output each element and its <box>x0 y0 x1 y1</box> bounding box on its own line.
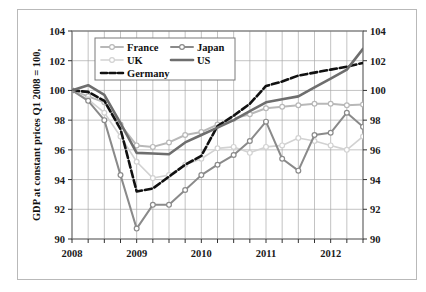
y-tick-label-right: 98 <box>370 115 381 126</box>
series-marker-uk <box>344 147 349 152</box>
y-tick-label-left: 100 <box>49 85 65 96</box>
series-marker-uk <box>150 176 155 181</box>
legend-marker-japan <box>180 45 185 50</box>
series-marker-france <box>150 144 155 149</box>
y-tick-label-right: 96 <box>370 145 381 156</box>
x-tick-label: 2009 <box>126 248 147 259</box>
legend-label-us[interactable]: US <box>197 55 211 66</box>
y-tick-label-left: 102 <box>49 56 65 67</box>
series-marker-uk <box>328 143 333 148</box>
series-marker-uk <box>102 110 107 115</box>
x-tick-label: 2012 <box>320 248 341 259</box>
series-marker-france <box>361 102 366 107</box>
series-marker-uk <box>247 150 252 155</box>
x-tick-label: 2010 <box>191 248 212 259</box>
y-tick-label-left: 98 <box>55 115 66 126</box>
y-tick-label-right: 90 <box>370 234 381 245</box>
series-marker-japan <box>183 188 188 193</box>
series-marker-france <box>312 101 317 106</box>
series-marker-uk <box>134 159 139 164</box>
series-marker-france <box>183 133 188 138</box>
series-marker-uk <box>361 134 366 139</box>
series-marker-france <box>344 103 349 108</box>
series-marker-japan <box>247 139 252 144</box>
series-marker-japan <box>280 156 285 161</box>
legend-label-germany[interactable]: Germany <box>127 68 170 79</box>
y-tick-label-left: 90 <box>55 234 66 245</box>
series-marker-uk <box>231 144 236 149</box>
series-marker-uk <box>280 143 285 148</box>
legend-label-france[interactable]: France <box>127 42 159 53</box>
series-marker-uk <box>215 146 220 151</box>
y-tick-label-right: 104 <box>370 26 387 37</box>
y-tick-label-right: 100 <box>370 85 386 96</box>
x-axis: 20082009201020112012 <box>62 239 364 259</box>
series-marker-japan <box>344 110 349 115</box>
x-tick-label: 2011 <box>256 248 276 259</box>
series-marker-uk <box>264 144 269 149</box>
y-tick-label-right: 92 <box>370 204 381 215</box>
gdp-line-chart: 9090929294949696989810010010210210410420… <box>0 0 426 292</box>
legend-label-uk[interactable]: UK <box>127 55 144 66</box>
y-tick-label-left: 104 <box>49 26 66 37</box>
series-marker-uk <box>296 136 301 141</box>
y-tick-label-left: 94 <box>55 175 66 186</box>
series-marker-japan <box>150 202 155 207</box>
series-marker-japan <box>296 168 301 173</box>
series-marker-japan <box>312 133 317 138</box>
series-marker-france <box>264 106 269 111</box>
series-marker-japan <box>199 173 204 178</box>
series-marker-japan <box>102 118 107 123</box>
y-tick-label-right: 94 <box>370 175 381 186</box>
series-marker-japan <box>167 202 172 207</box>
series-marker-france <box>328 101 333 106</box>
series-marker-japan <box>231 153 236 158</box>
legend: FranceJapanUKUSGermany <box>95 38 235 80</box>
series-marker-japan <box>361 124 366 129</box>
y-tick-label-left: 92 <box>55 204 66 215</box>
series-marker-japan <box>134 226 139 231</box>
x-tick-label: 2008 <box>62 248 83 259</box>
series-marker-japan <box>86 98 91 103</box>
series-marker-japan <box>215 162 220 167</box>
legend-marker-uk <box>110 58 115 63</box>
y-tick-label-right: 102 <box>370 56 386 67</box>
figure-container: 9090929294949696989810010010210210410420… <box>0 0 426 292</box>
series-marker-japan <box>328 130 333 135</box>
series-marker-japan <box>118 173 123 178</box>
y-tick-label-left: 96 <box>55 145 66 156</box>
series-marker-japan <box>264 119 269 124</box>
legend-label-japan[interactable]: Japan <box>197 42 225 53</box>
series-marker-france <box>280 104 285 109</box>
y-axis-title: GDP at constant prices Q1 2008 = 100, <box>31 49 42 222</box>
legend-marker-france <box>110 45 115 50</box>
series-marker-france <box>167 140 172 145</box>
series-marker-france <box>296 103 301 108</box>
